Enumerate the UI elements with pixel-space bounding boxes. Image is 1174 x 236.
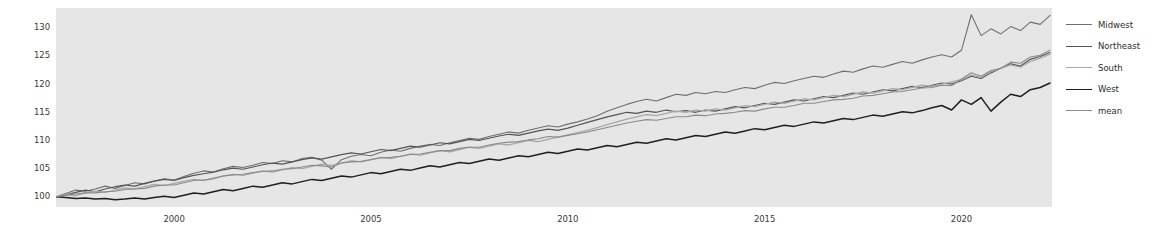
x-tick-label: 2020 — [941, 214, 981, 224]
x-tick-label: 2005 — [351, 214, 391, 224]
legend-label: West — [1098, 84, 1119, 94]
legend-item-northeast[interactable]: Northeast — [1066, 36, 1174, 58]
legend-item-midwest[interactable]: Midwest — [1066, 14, 1174, 36]
y-tick-label: 115 — [22, 107, 50, 117]
y-tick-label: 110 — [22, 135, 50, 145]
legend-item-south[interactable]: South — [1066, 57, 1174, 79]
y-tick-label: 125 — [22, 50, 50, 60]
legend-item-mean[interactable]: mean — [1066, 100, 1174, 122]
line-chart-plot — [0, 0, 1174, 236]
legend-swatch-icon — [1066, 46, 1092, 47]
legend-label: Northeast — [1098, 41, 1140, 51]
legend-item-west[interactable]: West — [1066, 79, 1174, 101]
x-tick-label: 2010 — [548, 214, 588, 224]
legend-label: South — [1098, 63, 1123, 73]
chart-legend: MidwestNortheastSouthWestmean — [1066, 14, 1174, 126]
legend-swatch-icon — [1066, 24, 1092, 25]
y-tick-label: 105 — [22, 163, 50, 173]
x-tick-label: 2000 — [154, 214, 194, 224]
legend-swatch-icon — [1066, 89, 1092, 90]
y-tick-label: 100 — [22, 191, 50, 201]
y-tick-label: 120 — [22, 79, 50, 89]
legend-swatch-icon — [1066, 67, 1092, 68]
y-tick-label: 130 — [22, 22, 50, 32]
legend-label: mean — [1098, 106, 1122, 116]
legend-label: Midwest — [1098, 20, 1133, 30]
legend-swatch-icon — [1066, 110, 1092, 111]
x-tick-label: 2015 — [745, 214, 785, 224]
chart-figure: 100105110115120125130 200020052010201520… — [0, 0, 1174, 236]
